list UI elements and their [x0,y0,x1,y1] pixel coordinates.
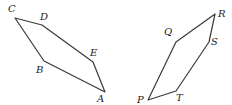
diagram-canvas [0,0,232,105]
pentagon-pqrst [148,14,215,100]
vertex-label-a: A [97,94,104,104]
vertex-label-c: C [8,4,16,14]
vertex-label-e: E [90,48,97,58]
vertex-label-s: S [211,37,218,47]
vertex-label-b: B [36,65,43,75]
vertex-label-r: R [218,9,226,19]
vertex-label-q: Q [164,27,172,37]
vertex-label-t: T [176,93,183,103]
vertex-label-p: P [137,95,144,105]
vertex-label-d: D [40,12,48,22]
